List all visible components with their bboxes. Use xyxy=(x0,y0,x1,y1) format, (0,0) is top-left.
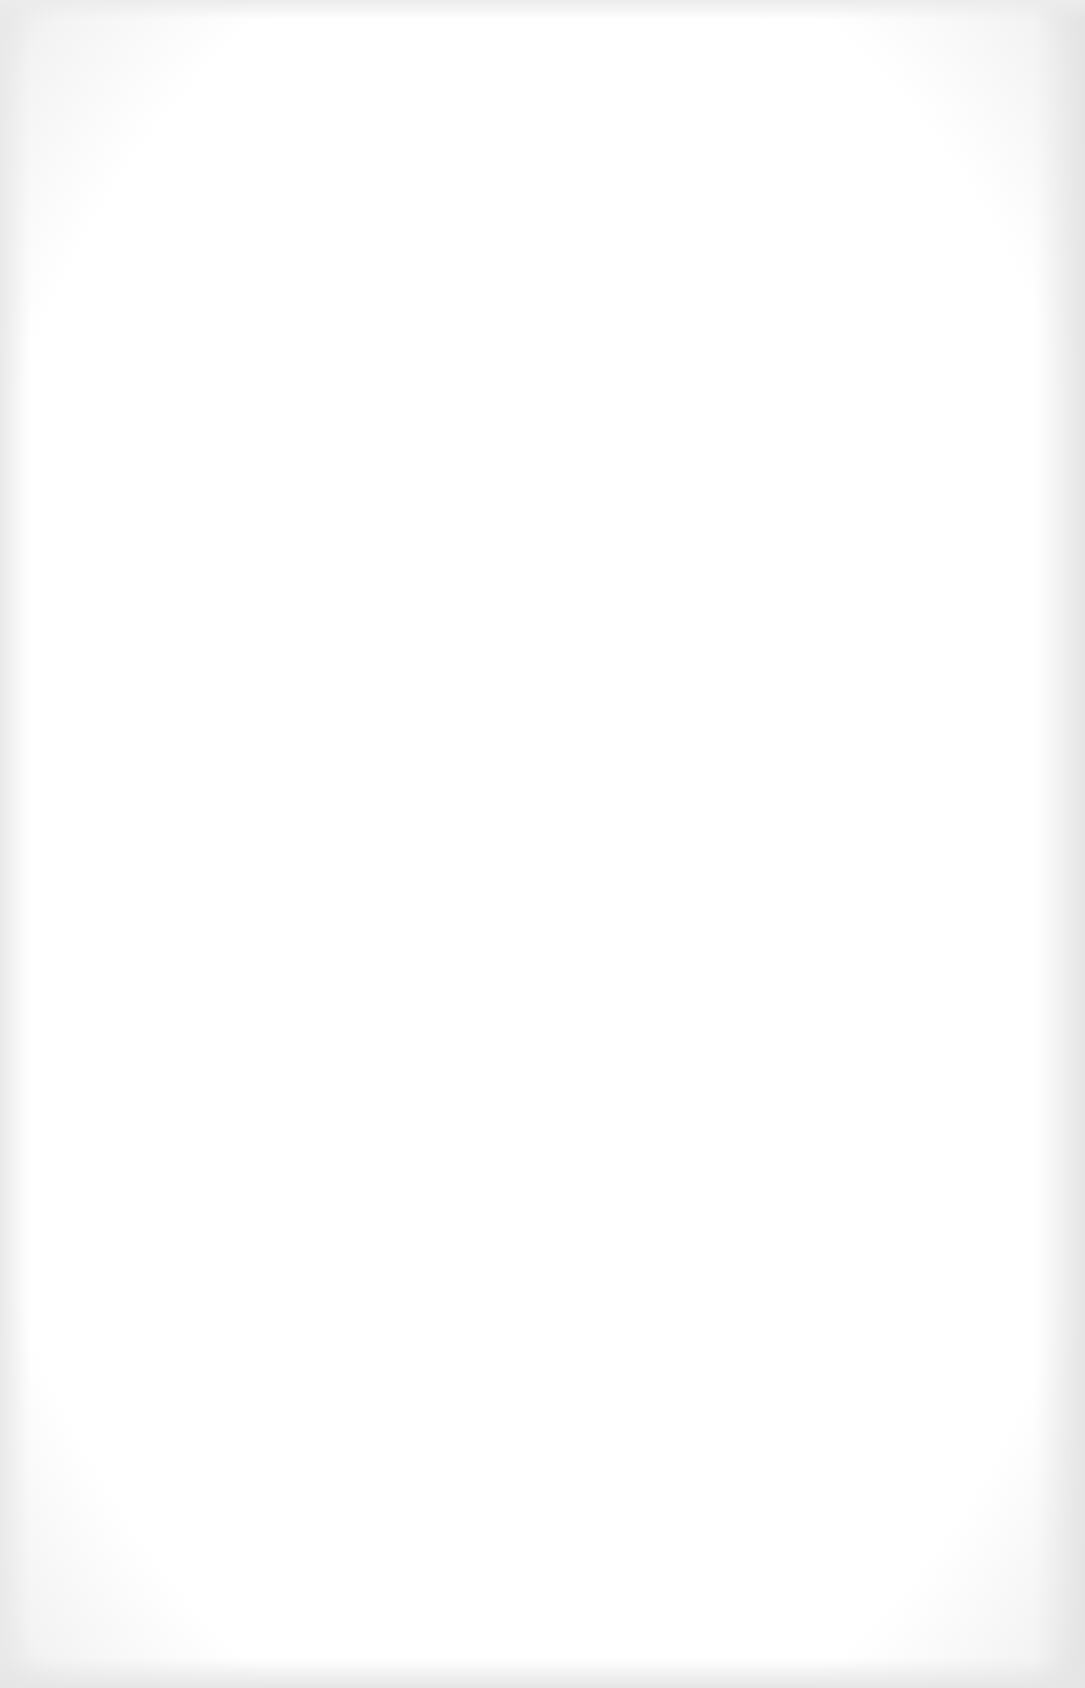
page-edge-shadow-bottom xyxy=(0,1658,1085,1688)
scanned-page xyxy=(0,0,1085,1688)
page-edge-shadow-right xyxy=(1035,0,1085,1688)
page-edge-shadow-top xyxy=(0,0,1085,20)
page-edge-shadow-left xyxy=(0,0,30,1688)
